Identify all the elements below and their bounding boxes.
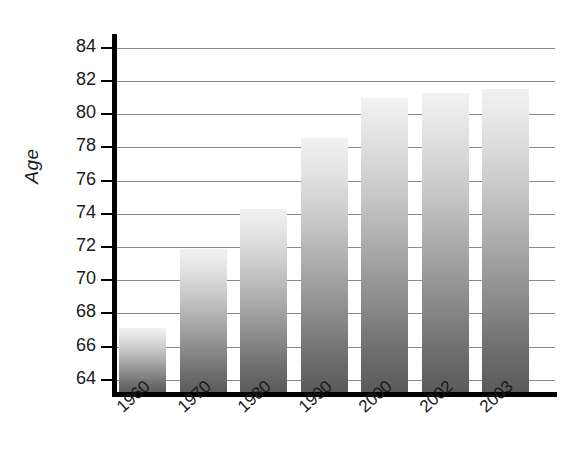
y-axis-tick-label: 64 bbox=[46, 368, 96, 389]
y-axis-tick bbox=[101, 246, 114, 248]
y-axis-tick bbox=[101, 47, 114, 49]
y-axis-tick bbox=[101, 379, 114, 381]
y-axis-tick bbox=[101, 180, 114, 182]
y-axis-tick-label: 76 bbox=[46, 169, 96, 190]
y-axis-tick bbox=[101, 113, 114, 115]
bar bbox=[361, 98, 408, 393]
y-axis-tick bbox=[101, 80, 114, 82]
y-axis-line bbox=[112, 34, 117, 397]
y-axis-tick-label: 84 bbox=[46, 36, 96, 57]
y-axis-tick-label: 66 bbox=[46, 335, 96, 356]
y-axis-title: Age bbox=[21, 136, 43, 196]
y-axis-tick bbox=[101, 312, 114, 314]
bar-chart: Age 6466687072747678808284 1960197019801… bbox=[0, 0, 583, 474]
y-axis-tick bbox=[101, 346, 114, 348]
gridline bbox=[116, 48, 555, 49]
y-axis-tick-label: 70 bbox=[46, 268, 96, 289]
y-axis-tick-label: 68 bbox=[46, 301, 96, 322]
bar bbox=[422, 93, 469, 393]
bar bbox=[301, 138, 348, 393]
y-axis-tick bbox=[101, 213, 114, 215]
y-axis-tick bbox=[101, 279, 114, 281]
y-axis-tick-label: 80 bbox=[46, 102, 96, 123]
y-axis-tick-label: 78 bbox=[46, 135, 96, 156]
y-axis-tick-label: 82 bbox=[46, 69, 96, 90]
bar bbox=[482, 89, 529, 393]
y-axis-tick-label: 72 bbox=[46, 235, 96, 256]
plot-area bbox=[116, 38, 555, 393]
gridline bbox=[116, 81, 555, 82]
y-axis-tick bbox=[101, 146, 114, 148]
y-axis-tick-label: 74 bbox=[46, 202, 96, 223]
